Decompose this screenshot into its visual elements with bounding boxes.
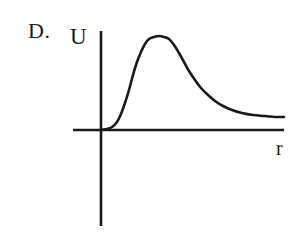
potential-energy-curve: [101, 36, 284, 130]
plot-area: [0, 0, 307, 239]
figure-canvas: D. U r: [0, 0, 307, 239]
